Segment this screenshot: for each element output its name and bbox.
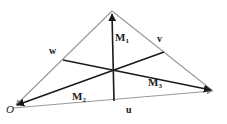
label-origin: O	[6, 104, 14, 115]
label-median-m3: M3	[148, 77, 162, 88]
label-vector-w: w	[49, 46, 56, 56]
label-vector-u: u	[126, 105, 132, 115]
label-median-m2: M2	[72, 91, 86, 102]
median-m3-left-mid-to-right	[63, 60, 211, 90]
label-median-m3-subscript: 3	[158, 82, 162, 90]
triangle-medians	[17, 14, 211, 105]
label-median-m1: M1	[115, 32, 129, 43]
figure-canvas: O u v w M1 M2 M3	[0, 0, 227, 124]
label-vector-v: v	[157, 34, 162, 44]
label-median-m2-base: M	[72, 90, 82, 102]
label-median-m3-base: M	[148, 76, 158, 88]
label-median-m1-subscript: 1	[125, 37, 129, 45]
triangle-median-diagram	[0, 0, 227, 124]
edge-w-apex-to-origin	[16, 11, 112, 105]
median-m1-bottom-mid-to-apex	[112, 14, 114, 101]
label-median-m2-subscript: 2	[82, 96, 86, 104]
edge-u-origin-to-right	[13, 91, 212, 108]
label-median-m1-base: M	[115, 31, 125, 43]
edge-v-apex-to-right	[112, 11, 213, 91]
